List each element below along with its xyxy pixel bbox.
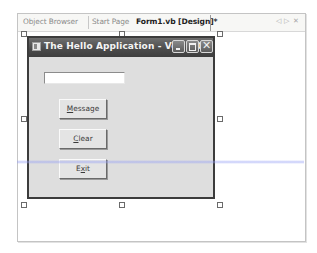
- clear-button-label: lear: [79, 134, 93, 143]
- exit-button-label: it: [85, 164, 90, 173]
- message-button-label: essage: [73, 104, 99, 113]
- close-button[interactable]: ✕: [200, 40, 213, 53]
- close-tab-icon[interactable]: ✕: [293, 17, 299, 25]
- close-icon: ✕: [202, 39, 211, 52]
- tab-form1-design[interactable]: Form1.vb [Design]*: [136, 17, 217, 26]
- document-tab-strip: Object Browser Start Page Form1.vb [Desi…: [18, 14, 305, 32]
- scroll-tabs-right-icon[interactable]: ▷: [284, 17, 289, 25]
- minimize-button[interactable]: [172, 40, 185, 53]
- scroll-tabs-left-icon[interactable]: ◁: [276, 17, 281, 25]
- resize-handle-top-right[interactable]: [217, 31, 223, 37]
- maximize-icon: [189, 43, 196, 51]
- message-button[interactable]: Message: [59, 99, 107, 119]
- tab-object-browser[interactable]: Object Browser: [23, 17, 78, 26]
- resize-handle-right[interactable]: [217, 116, 223, 122]
- tab-separator: [88, 16, 89, 29]
- message-textbox[interactable]: [44, 72, 125, 84]
- tab-start-page[interactable]: Start Page: [92, 17, 129, 26]
- form1-window[interactable]: The Hello Application - Ver. 3.0 ✕ Messa…: [27, 36, 215, 199]
- maximize-button[interactable]: [186, 40, 199, 53]
- form-client-area[interactable]: Message Clear Exit: [29, 57, 213, 197]
- form-title-bar[interactable]: The Hello Application - Ver. 3.0 ✕: [29, 38, 213, 57]
- minimize-icon: [176, 48, 180, 50]
- form-app-icon: [32, 42, 41, 51]
- resize-handle-bottom-right[interactable]: [217, 202, 223, 208]
- exit-button[interactable]: Exit: [59, 159, 107, 179]
- resize-handle-bottom-left[interactable]: [21, 202, 27, 208]
- resize-handle-bottom[interactable]: [119, 202, 125, 208]
- tab-separator: [210, 15, 211, 31]
- clear-button[interactable]: Clear: [59, 129, 107, 149]
